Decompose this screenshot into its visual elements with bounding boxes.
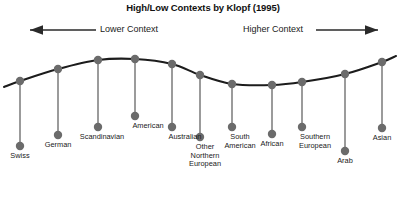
stem-end-marker (378, 124, 386, 132)
curve-marker (228, 80, 236, 88)
curve-marker (268, 81, 276, 89)
stem-end-marker (341, 147, 349, 155)
point-label: South American (224, 133, 255, 150)
stem-end-marker (168, 123, 176, 131)
point-label: American (132, 122, 163, 131)
curve-marker (298, 78, 306, 86)
stem-end-marker (228, 123, 236, 131)
context-curve-plot (0, 0, 406, 202)
curve-marker (196, 71, 204, 79)
point-label: Scandinavian (80, 133, 124, 142)
stem-end-marker (131, 112, 139, 120)
point-label: Southern European (299, 133, 331, 150)
curve-marker (94, 56, 102, 64)
curve-marker (16, 77, 24, 85)
curve-marker (341, 70, 349, 78)
stem-end-marker (94, 123, 102, 131)
point-label: Australian (169, 133, 202, 142)
curve-marker (378, 58, 386, 66)
point-label: Asian (373, 134, 392, 143)
stem-end-marker (268, 130, 276, 138)
curve-marker (54, 65, 62, 73)
point-label: African (260, 140, 283, 149)
point-label: Swiss (10, 152, 29, 161)
stem-end-marker (54, 131, 62, 139)
curve-marker (131, 55, 139, 63)
point-label: Other Northern European (189, 143, 221, 169)
point-label: Arab (337, 157, 353, 166)
point-label: German (45, 141, 72, 150)
chart-figure: High/Low Contexts by Klopf (1995) Lower … (0, 0, 406, 202)
stem-end-marker (16, 142, 24, 150)
curve-marker (168, 60, 176, 68)
stem-end-marker (298, 123, 306, 131)
